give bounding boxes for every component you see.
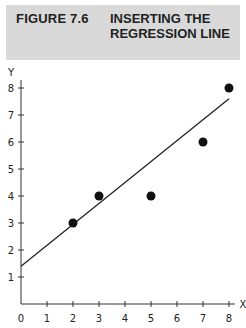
y-axis-label: Y: [7, 67, 15, 78]
x-tick-label: 0: [18, 313, 24, 324]
x-tick-label: 4: [122, 313, 128, 324]
x-tick-label: 6: [174, 313, 180, 324]
y-tick-label: 4: [8, 191, 14, 202]
data-point: [147, 192, 156, 201]
x-tick-label: 5: [148, 313, 154, 324]
y-tick-label: 1: [8, 272, 14, 283]
data-point: [95, 192, 104, 201]
y-tick-label: 6: [8, 137, 14, 148]
x-tick-label: 1: [44, 313, 50, 324]
regression-line: [21, 99, 229, 266]
y-tick-label: 5: [8, 164, 14, 175]
x-axis-label: X: [240, 299, 246, 310]
x-tick-label: 3: [96, 313, 102, 324]
data-point: [225, 84, 234, 93]
data-point: [69, 219, 78, 228]
y-tick-label: 2: [8, 245, 14, 256]
x-tick-label: 2: [70, 313, 76, 324]
x-tick-label: 7: [200, 313, 206, 324]
y-tick-label: 7: [8, 110, 14, 121]
scatter-chart: 01234567812345678XY: [0, 0, 246, 328]
y-tick-label: 8: [8, 83, 14, 94]
data-point: [199, 138, 208, 147]
x-tick-label: 8: [226, 313, 232, 324]
y-tick-label: 3: [8, 218, 14, 229]
